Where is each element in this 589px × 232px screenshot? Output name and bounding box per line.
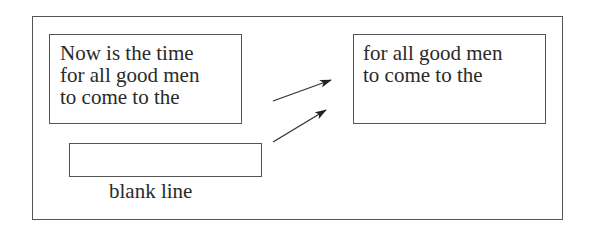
arrows-layer (0, 0, 589, 232)
arrow-icon (273, 110, 326, 142)
arrow-icon (273, 80, 331, 101)
